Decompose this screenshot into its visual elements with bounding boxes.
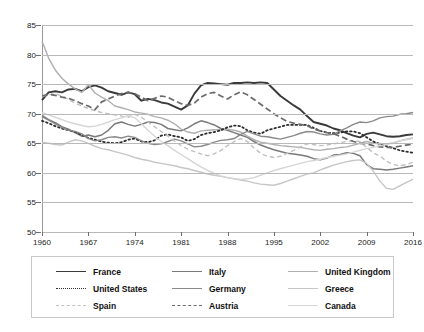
y-tick-mark	[36, 25, 41, 26]
y-tick-label: 55	[27, 198, 36, 207]
gridline-y-85	[42, 25, 413, 26]
x-tick-label: 1995	[265, 238, 283, 247]
gridline-y-70	[42, 114, 413, 115]
x-tick-label: 2002	[311, 238, 329, 247]
legend-swatch-icon	[172, 288, 202, 289]
legend-label: Greece	[325, 284, 354, 294]
legend-swatch-icon	[56, 271, 86, 272]
x-tick-mark	[274, 232, 275, 236]
x-tick-label: 2016	[404, 238, 422, 247]
legend-label: Canada	[325, 301, 356, 311]
legend-item-germany[interactable]: Germany	[172, 284, 288, 294]
x-tick-mark	[88, 232, 89, 236]
gridline-y-60	[42, 173, 413, 174]
legend-item-united-states[interactable]: United States	[56, 284, 172, 294]
x-tick-mark	[181, 232, 182, 236]
chart-page: 5055606570758085 19601967197419811988199…	[0, 0, 424, 332]
legend-grid: FranceItalyUnited KingdomUnited StatesGe…	[56, 263, 396, 314]
y-tick-label: 65	[27, 139, 36, 148]
legend-item-austria[interactable]: Austria	[172, 301, 288, 311]
gridline-y-65	[42, 143, 413, 144]
gridline-y-75	[42, 84, 413, 85]
legend-label: Italy	[209, 267, 226, 277]
legend-swatch-icon	[288, 305, 318, 306]
plot-area	[42, 25, 413, 232]
y-tick-mark	[36, 84, 41, 85]
y-tick-mark	[36, 143, 41, 144]
y-tick-label: 50	[27, 228, 36, 237]
x-tick-mark	[135, 232, 136, 236]
legend-item-canada[interactable]: Canada	[288, 301, 404, 311]
y-tick-label: 70	[27, 109, 36, 118]
x-tick-mark	[367, 232, 368, 236]
y-tick-label: 75	[27, 80, 36, 89]
y-tick-mark	[36, 173, 41, 174]
series-line-united-kingdom	[42, 41, 413, 150]
legend-swatch-icon	[56, 305, 86, 306]
legend-swatch-icon	[56, 288, 86, 289]
legend-item-italy[interactable]: Italy	[172, 267, 288, 277]
legend-label: Spain	[93, 301, 116, 311]
y-tick-label: 85	[27, 21, 36, 30]
x-tick-mark	[42, 232, 43, 236]
legend-label: Germany	[209, 284, 246, 294]
legend-item-greece[interactable]: Greece	[288, 284, 404, 294]
y-tick-label: 80	[27, 50, 36, 59]
legend-swatch-icon	[288, 271, 318, 272]
y-tick-mark	[36, 55, 41, 56]
series-layer	[42, 25, 413, 232]
x-tick-mark	[413, 232, 414, 236]
x-tick-label: 1960	[33, 238, 51, 247]
legend: FranceItalyUnited KingdomUnited StatesGe…	[31, 256, 394, 318]
legend-label: France	[93, 267, 121, 277]
y-tick-mark	[36, 202, 41, 203]
y-tick-mark	[36, 114, 41, 115]
x-tick-mark	[228, 232, 229, 236]
legend-item-spain[interactable]: Spain	[56, 301, 172, 311]
x-tick-label: 1974	[126, 238, 144, 247]
legend-label: Austria	[209, 301, 238, 311]
x-tick-label: 1981	[172, 238, 190, 247]
legend-item-france[interactable]: France	[56, 267, 172, 277]
legend-swatch-icon	[172, 305, 202, 306]
gridline-y-80	[42, 55, 413, 56]
legend-swatch-icon	[288, 288, 318, 289]
gridline-y-55	[42, 202, 413, 203]
y-tick-mark	[36, 232, 41, 233]
x-tick-mark	[320, 232, 321, 236]
y-tick-label: 60	[27, 168, 36, 177]
legend-swatch-icon	[172, 271, 202, 272]
x-tick-label: 2009	[358, 238, 376, 247]
legend-label: United Kingdom	[325, 267, 391, 277]
legend-label: United States	[93, 284, 147, 294]
legend-item-united-kingdom[interactable]: United Kingdom	[288, 267, 404, 277]
x-tick-label: 1988	[219, 238, 237, 247]
x-tick-label: 1967	[79, 238, 97, 247]
series-line-greece	[42, 140, 413, 190]
